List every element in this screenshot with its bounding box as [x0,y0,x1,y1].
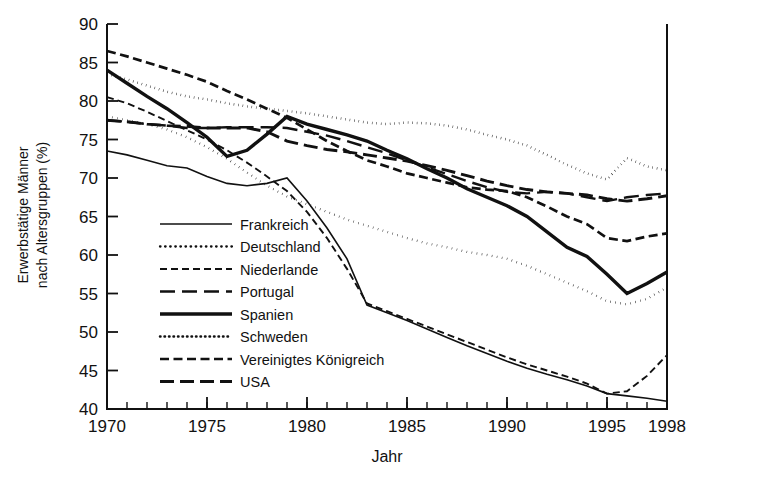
x-tick-label: 1995 [588,417,626,436]
legend-label: Niederlande [240,262,318,278]
y-tick-label: 70 [79,169,98,188]
legend-label: USA [240,374,270,390]
x-tick-label: 1990 [488,417,526,436]
y-tick-label: 85 [79,54,98,73]
line-chart: 4045505560657075808590 19701975198019851… [0,0,772,485]
y-tick-label: 60 [79,246,98,265]
y-tick-label: 45 [79,362,98,381]
x-tick-label: 1980 [288,417,326,436]
y-tick-label: 90 [79,15,98,34]
legend-label: Portugal [240,284,294,300]
x-tick-label: 1998 [648,417,686,436]
chart-background [0,0,772,485]
y-axis-title-line2: nach Altersgruppen (%) [34,142,50,288]
legend-label: Schweden [240,329,308,345]
y-tick-label: 55 [79,285,98,304]
legend-label: Vereinigtes Königreich [240,352,384,368]
legend-label: Deutschland [240,239,321,255]
legend-label: Spanien [240,307,293,323]
y-axis-title-line1: Erwerbstätige Männer [15,146,31,283]
x-axis-title: Jahr [371,448,403,465]
chart-container: 4045505560657075808590 19701975198019851… [0,0,772,485]
y-tick-label: 75 [79,131,98,150]
x-tick-label: 1985 [388,417,426,436]
y-tick-label: 80 [79,92,98,111]
y-tick-label: 65 [79,208,98,227]
y-tick-label: 50 [79,323,98,342]
x-tick-label: 1975 [188,417,226,436]
legend-label: Frankreich [240,217,309,233]
x-tick-label: 1970 [88,417,126,436]
